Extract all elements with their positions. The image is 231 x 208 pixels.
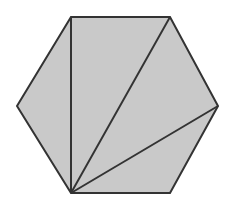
geometry-figure <box>0 0 231 208</box>
